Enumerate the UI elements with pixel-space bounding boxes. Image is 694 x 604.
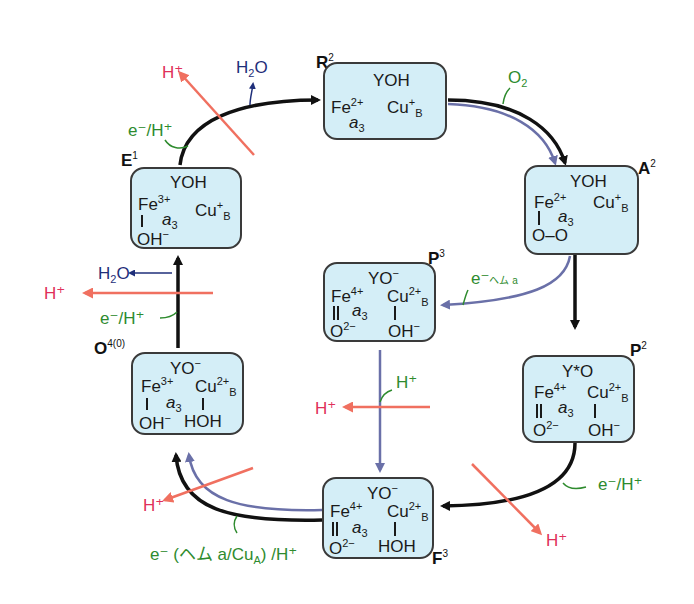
fe-ligand: O2− [329,538,355,557]
proton-out-P2: H⁺ [546,530,567,551]
heme: a3 [166,394,182,414]
heme: a3 [349,114,365,134]
tyrosine-radical: Y*O [562,363,593,380]
fe-ligand: O2− [330,321,356,340]
fe-ligand: O2− [533,420,559,439]
arrow-E-to-R [180,100,318,165]
arrow-R-to-A [448,100,565,163]
electron-heme-cu-proton: e⁻ (ヘム a/CuA) /H⁺ [150,540,297,566]
state-label-P2: P2 [630,340,647,361]
electron-proton-O: e⁻/H⁺ [100,308,144,329]
heme: a3 [352,519,368,539]
fe-ligand: OH− [137,229,169,248]
state-label-A: A2 [638,158,656,179]
state-R: YOH Fe2+ a3 Cu+B [323,62,447,140]
tyrosine: YO− [170,358,201,377]
electron-proton-1: e⁻/H⁺ [128,120,172,141]
copper: Cu2+B [387,501,429,523]
state-P3: YO− Fe4+ a3 Cu2+B O2− OH− [323,262,436,342]
electron-proton-P2: e⁻/H⁺ [598,474,642,495]
water-release-2: H2O [98,264,130,285]
fe-ligand: OH− [139,413,171,432]
state-P2: Y*O Fe4+ a3 Cu2+B O2− OH− [522,355,635,443]
proton-uptake-P3: H⁺ [396,372,417,393]
proton-out-P3: H⁺ [315,398,336,419]
heme: a3 [558,208,574,228]
tyrosine: YO− [367,483,398,502]
proton-out-O: H⁺ [44,283,65,304]
state-F: YO− Fe4+ a3 Cu2+B O2− HOH [322,477,434,559]
peroxide-ligand: O–O [532,227,568,244]
heme: a3 [352,302,368,322]
cu-ligand: OH− [388,321,420,340]
tyrosine: YOH [170,174,207,191]
copper: Cu2+B [587,382,629,404]
state-label-E: E1 [121,150,138,171]
electron-heme-a: e⁻ヘム a [471,268,518,289]
copper: Cu+B [593,192,629,214]
copper: Cu2+B [387,286,429,308]
copper: Cu2+B [195,376,237,398]
state-O: YO− Fe3+ a3 Cu2+B OH− HOH [131,352,244,435]
proton-out-1: H⁺ [162,62,183,83]
state-label-F: F3 [432,548,448,569]
state-E: YOH Fe3+ a3 Cu+B OH− [130,167,242,249]
heme: a3 [558,399,574,419]
cu-ligand: HOH [184,413,222,430]
state-A: YOH Fe2+ a3 Cu+B O–O [524,165,639,255]
arrow-P2-to-F [443,443,575,506]
state-label-O: O4(0) [94,338,125,359]
water-release-1: H2O [236,58,268,79]
copper: Cu+B [387,97,423,119]
tyrosine: YOH [570,173,607,190]
cu-ligand: OH− [588,420,620,439]
tyrosine: YOH [373,72,410,89]
copper: Cu+B [195,200,231,222]
tyrosine: YO− [368,268,399,287]
catalytic-cycle-diagram: R2 YOH Fe2+ a3 Cu+B A2 YOH Fe2+ a3 Cu+B … [0,0,694,604]
cu-ligand: HOH [378,538,416,555]
oxygen-binding: O2 [508,68,527,89]
proton-out-F: H⁺ [143,495,164,516]
